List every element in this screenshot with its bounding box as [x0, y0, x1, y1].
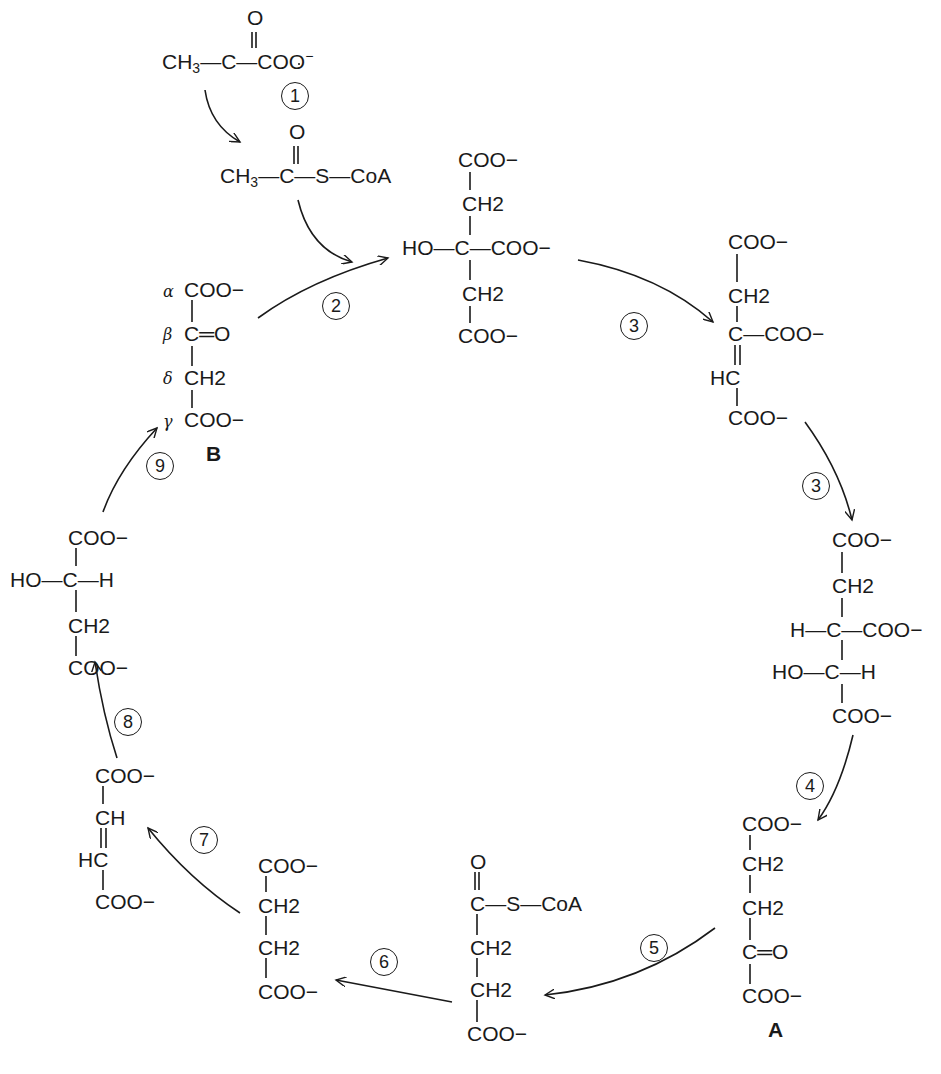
delta-label: δ: [163, 369, 173, 388]
isocitrate-row-5: COO−: [832, 704, 892, 728]
compound-label-b: B: [206, 442, 221, 466]
a-ketoglutarate-row-5: COO−: [742, 984, 802, 1008]
isocitrate-row-4: HO—C—H: [772, 660, 876, 684]
oxaloacetate-row-1: COO−: [184, 278, 244, 302]
succinyl-coa-row-5: COO−: [467, 1022, 527, 1046]
step-9-marker: 9: [146, 452, 174, 480]
step-2-marker: 2: [322, 292, 350, 320]
cis-aconitate-row-4: HC: [710, 366, 740, 390]
malate-row-1: COO−: [68, 526, 128, 550]
cis-aconitate-row-2: CH2: [728, 284, 770, 308]
step-8-marker: 8: [114, 708, 142, 736]
alpha-label: α: [163, 282, 174, 301]
oxaloacetate-row-3: CH2: [184, 366, 226, 390]
malate-row-4: COO−: [68, 656, 128, 680]
pyruvate-carbonyl-o: O: [247, 6, 263, 30]
succinyl-coa-row-3: CH2: [470, 936, 512, 960]
citrate-row-3: HO—C—COO−: [402, 236, 551, 260]
isocitrate-row-3: H—C—COO−: [790, 618, 922, 642]
cis-aconitate-row-5: COO−: [728, 406, 788, 430]
isocitrate-row-2: CH2: [832, 574, 874, 598]
isocitrate-row-1: COO−: [832, 528, 892, 552]
succinyl-coa-row-4: CH2: [470, 978, 512, 1002]
cis-aconitate-row-1: COO−: [728, 230, 788, 254]
step-3b-marker: 3: [802, 472, 830, 500]
fumarate-row-4: COO−: [95, 890, 155, 914]
malate-row-2: HO—C—H: [10, 568, 114, 592]
step-4-marker: 4: [796, 772, 824, 800]
citrate-row-5: COO−: [458, 324, 518, 348]
gamma-label: γ: [163, 412, 173, 431]
oxaloacetate-row-4: COO−: [184, 408, 244, 432]
citrate-row-2: CH2: [462, 192, 504, 216]
citrate-row-4: CH2: [462, 282, 504, 306]
a-ketoglutarate-row-4: C═O: [742, 940, 788, 964]
acetyl-coa-formula: CH3—C—S—CoA: [220, 164, 391, 188]
pyruvate-formula: CH3—C—COO−: [162, 50, 313, 74]
oxaloacetate-row-2: C═O: [184, 322, 230, 346]
step-3a-marker: 3: [620, 312, 648, 340]
succinate-row-2: CH2: [258, 894, 300, 918]
fumarate-row-2: CH: [95, 806, 125, 830]
a-ketoglutarate-row-2: CH2: [742, 852, 784, 876]
cis-aconitate-row-3: C—COO−: [728, 322, 824, 346]
step-6-marker: 6: [370, 948, 398, 976]
compound-label-a: A: [768, 1018, 783, 1042]
beta-label: β: [163, 325, 172, 344]
acetyl-coa-carbonyl-o: O: [289, 120, 305, 144]
fumarate-row-1: COO−: [95, 764, 155, 788]
succinate-row-3: CH2: [258, 936, 300, 960]
a-ketoglutarate-row-3: CH2: [742, 896, 784, 920]
citric-acid-cycle-diagram: O CH3—C—COO− 1 O CH3—C—S—CoA COO− CH2 HO…: [0, 0, 941, 1074]
citrate-row-1: COO−: [458, 148, 518, 172]
succinyl-coa-row-1: O: [470, 850, 486, 874]
malate-row-3: CH2: [68, 614, 110, 638]
fumarate-row-3: HC: [78, 848, 108, 872]
step-1-marker: 1: [281, 82, 309, 110]
step-7-marker: 7: [190, 826, 218, 854]
a-ketoglutarate-row-1: COO−: [742, 812, 802, 836]
step-5-marker: 5: [640, 934, 668, 962]
succinyl-coa-row-2: C—S—CoA: [470, 892, 582, 916]
succinate-row-4: COO−: [258, 980, 318, 1004]
succinate-row-1: COO−: [258, 854, 318, 878]
